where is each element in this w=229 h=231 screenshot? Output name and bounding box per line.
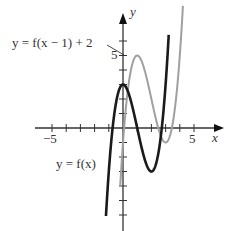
y-tick-label-5: 5 (111, 47, 118, 63)
base-curve-label: y = f(x) (56, 156, 96, 172)
x-axis-label: x (212, 130, 218, 146)
y-axis-arrow-icon (119, 13, 127, 24)
x-tick-label-5: 5 (189, 131, 196, 147)
y-axis-label: y (130, 4, 136, 20)
x-tick-label-neg5: −5 (43, 131, 57, 147)
shifted-curve-label: y = f(x − 1) + 2 (12, 35, 92, 51)
